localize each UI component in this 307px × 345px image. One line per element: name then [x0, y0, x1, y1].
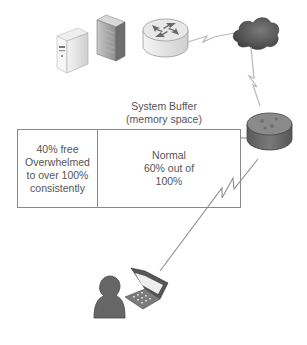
wan-link-router-cloud [188, 33, 234, 42]
laptop-icon [125, 268, 168, 309]
buffer-title-line2: (memory space) [104, 113, 224, 126]
buffer-cell-overwhelmed: 40% free Overwhelmed to over 100% consis… [18, 130, 98, 207]
buffer-left-line: 40% free [25, 143, 90, 156]
cloud-icon [233, 18, 279, 50]
wan-link-cloud-router [249, 47, 260, 106]
buffer-right-line: 60% out of [144, 162, 194, 175]
router-dark-icon [247, 113, 292, 150]
buffer-cell-normal: Normal 60% out of 100% [98, 130, 240, 207]
router-icon [143, 19, 188, 57]
buffer-right-line: Normal [144, 149, 194, 162]
buffer-left-line: Overwhelmed [25, 156, 90, 169]
server-tower-icon [57, 28, 88, 73]
buffer-right-line: 100% [144, 175, 194, 188]
user-icon [94, 276, 125, 318]
buffer-title-line1: System Buffer [104, 100, 224, 113]
system-buffer-box: 40% free Overwhelmed to over 100% consis… [17, 129, 241, 208]
firewall-icon [97, 15, 125, 61]
buffer-left-line: consistently [25, 182, 90, 195]
buffer-left-line: to over 100% [25, 169, 90, 182]
buffer-title: System Buffer (memory space) [104, 100, 224, 126]
